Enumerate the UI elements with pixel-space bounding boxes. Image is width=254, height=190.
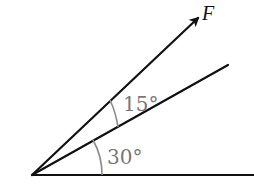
force-diagram: F 15° 30° — [0, 0, 254, 190]
angle-label-30: 30° — [107, 145, 142, 169]
angle-label-15: 15° — [123, 92, 158, 116]
force-label: F — [201, 2, 215, 24]
angle-arc-30 — [93, 140, 102, 175]
angle-arc-15 — [110, 100, 118, 127]
